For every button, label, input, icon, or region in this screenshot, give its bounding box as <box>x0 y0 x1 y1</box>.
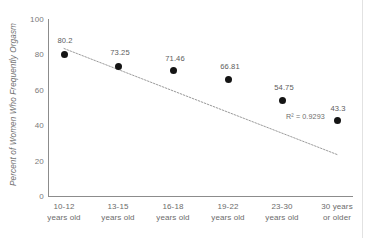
data-label-2: 71.46 <box>165 54 185 63</box>
x-tick-0-line2: years old <box>33 212 95 223</box>
data-label-1: 73.25 <box>110 48 130 57</box>
y-tick-20: 20 <box>2 157 44 166</box>
y-tick-80: 80 <box>2 50 44 59</box>
data-point-2 <box>170 67 177 74</box>
data-point-0 <box>61 51 68 58</box>
x-tick-5-line1: 30 years <box>306 201 368 212</box>
trendline <box>48 19 353 196</box>
data-label-3: 66.81 <box>220 62 240 71</box>
r-squared-annotation: R² = 0.9293 <box>286 112 325 121</box>
y-tick-0: 0 <box>2 192 44 201</box>
data-label-5: 43.3 <box>330 104 345 113</box>
x-tick-2-line2: years old <box>142 212 204 223</box>
x-tick-2: 16-18 years old <box>142 201 204 223</box>
x-tick-3-line1: 19-22 <box>197 201 259 212</box>
x-axis-line <box>48 196 353 197</box>
x-tick-4-line2: years old <box>251 212 313 223</box>
plot-area: 80.2 73.25 71.46 66.81 54.75 43.3 R² = 0… <box>48 19 353 196</box>
x-tick-0: 10-12 years old <box>33 201 95 223</box>
data-point-5 <box>334 117 341 124</box>
x-tick-2-line1: 16-18 <box>142 201 204 212</box>
data-label-0: 80.2 <box>57 36 72 45</box>
y-tick-60: 60 <box>2 86 44 95</box>
x-tick-3-line2: years old <box>197 212 259 223</box>
x-tick-5: 30 years or older <box>306 201 368 223</box>
x-tick-5-line2: or older <box>306 212 368 223</box>
data-point-4 <box>279 97 286 104</box>
chart-figure: Percent of Women Who Frequently Orgasm 1… <box>0 0 368 238</box>
y-tick-100: 100 <box>2 15 44 24</box>
x-tick-4: 23-30 years old <box>251 201 313 223</box>
x-tick-1: 13-15 years old <box>87 201 149 223</box>
x-tick-0-line1: 10-12 <box>33 201 95 212</box>
x-tick-3: 19-22 years old <box>197 201 259 223</box>
x-tick-1-line1: 13-15 <box>87 201 149 212</box>
data-label-4: 54.75 <box>274 83 294 92</box>
data-point-3 <box>225 76 232 83</box>
x-tick-1-line2: years old <box>87 212 149 223</box>
data-point-1 <box>115 63 122 70</box>
x-tick-4-line1: 23-30 <box>251 201 313 212</box>
y-tick-40: 40 <box>2 121 44 130</box>
